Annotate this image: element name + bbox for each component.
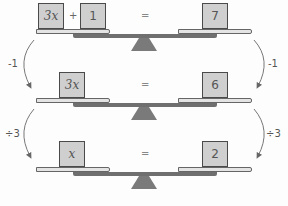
fulcrum-icon bbox=[131, 107, 157, 120]
balance-row-1: 3x + 1 = 7 bbox=[0, 3, 288, 58]
result-box: 7 bbox=[202, 3, 228, 29]
result-box: 6 bbox=[202, 72, 228, 98]
right-step2-label: ÷3 bbox=[266, 128, 281, 139]
plus-operator: + bbox=[69, 10, 77, 21]
equals-sign: = bbox=[141, 10, 149, 21]
fulcrum-icon bbox=[131, 38, 157, 51]
equals-sign: = bbox=[141, 79, 149, 90]
left-step1-label: -1 bbox=[8, 58, 18, 69]
fulcrum-icon bbox=[131, 176, 157, 189]
term-box: 3x bbox=[38, 3, 64, 29]
balance-row-2: 3x = 6 bbox=[0, 72, 288, 127]
balance-row-3: x = 2 bbox=[0, 141, 288, 196]
term-box: 3x bbox=[59, 72, 85, 98]
right-step1-label: -1 bbox=[268, 58, 278, 69]
term-box: x bbox=[59, 141, 85, 167]
constant-box: 1 bbox=[80, 3, 106, 29]
result-box: 2 bbox=[202, 141, 228, 167]
left-step2-label: ÷3 bbox=[5, 128, 20, 139]
equals-sign: = bbox=[141, 148, 149, 159]
